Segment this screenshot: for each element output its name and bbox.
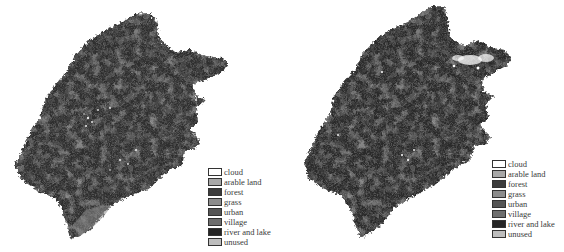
legend-label: arable land	[224, 177, 262, 187]
map-legend-left: cloudarable landforestgrassurbanvillager…	[208, 167, 271, 247]
legend-item-river-and-lake: river and lake	[492, 219, 555, 229]
legend-swatch	[208, 238, 222, 246]
legend-swatch	[492, 160, 506, 168]
legend-swatch	[492, 230, 506, 238]
legend-swatch	[208, 168, 222, 176]
legend-item-arable-land: arable land	[208, 177, 271, 187]
legend-label: urban	[224, 207, 243, 217]
legend-label: river and lake	[508, 219, 555, 229]
legend-item-cloud: cloud	[492, 159, 555, 169]
legend-label: village	[508, 209, 531, 219]
legend-item-unused: unused	[208, 237, 271, 247]
legend-swatch	[208, 188, 222, 196]
legend-label: grass	[508, 189, 525, 199]
land-use-map-panel-left: cloudarable landforestgrassurbanvillager…	[0, 0, 282, 252]
legend-label: unused	[508, 229, 532, 239]
legend-label: cloud	[224, 167, 243, 177]
legend-item-grass: grass	[492, 189, 555, 199]
legend-swatch	[492, 210, 506, 218]
legend-item-urban: urban	[208, 207, 271, 217]
legend-item-village: village	[492, 209, 555, 219]
legend-swatch	[492, 200, 506, 208]
legend-item-forest: forest	[492, 179, 555, 189]
legend-item-arable-land: arable land	[492, 169, 555, 179]
legend-item-urban: urban	[492, 199, 555, 209]
legend-swatch	[492, 190, 506, 198]
legend-label: forest	[508, 179, 527, 189]
legend-label: arable land	[508, 169, 546, 179]
legend-swatch	[492, 180, 506, 188]
legend-item-cloud: cloud	[208, 167, 271, 177]
legend-swatch	[208, 228, 222, 236]
legend-label: forest	[224, 187, 243, 197]
legend-label: cloud	[508, 159, 527, 169]
legend-label: urban	[508, 199, 527, 209]
map-legend-right: cloudarable landforestgrassurbanvillager…	[492, 159, 555, 239]
legend-item-unused: unused	[492, 229, 555, 239]
legend-item-village: village	[208, 217, 271, 227]
legend-swatch	[208, 178, 222, 186]
legend-item-river-and-lake: river and lake	[208, 227, 271, 237]
legend-swatch	[208, 198, 222, 206]
land-use-map-panel-right: cloudarable landforestgrassurbanvillager…	[282, 0, 564, 252]
legend-swatch	[492, 170, 506, 178]
legend-swatch	[208, 218, 222, 226]
legend-swatch	[492, 220, 506, 228]
legend-item-grass: grass	[208, 197, 271, 207]
legend-label: river and lake	[224, 227, 271, 237]
legend-label: grass	[224, 197, 241, 207]
legend-label: village	[224, 217, 247, 227]
legend-swatch	[208, 208, 222, 216]
legend-label: unused	[224, 237, 248, 247]
legend-item-forest: forest	[208, 187, 271, 197]
